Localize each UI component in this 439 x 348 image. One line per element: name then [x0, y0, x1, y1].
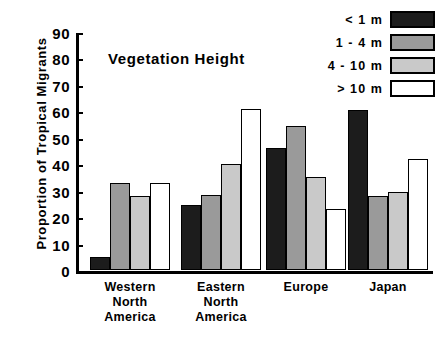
- light-gray-swatch: [390, 57, 435, 74]
- tick-mark: [76, 112, 83, 114]
- bar: [326, 209, 346, 270]
- legend: < 1 m1 - 4 m4 - 10 m> 10 m: [290, 8, 435, 100]
- category-label: WesternNorthAmerica: [78, 280, 182, 325]
- legend-label: 4 - 10 m: [328, 59, 383, 73]
- bar: [368, 196, 388, 270]
- tick-mark: [76, 271, 83, 273]
- bar: [388, 192, 408, 270]
- category-label-line: America: [169, 310, 273, 325]
- tick-mark: [76, 218, 83, 220]
- tick-label: 30: [52, 183, 70, 200]
- tick-label: 10: [52, 236, 70, 253]
- tick-label: 60: [52, 104, 70, 121]
- bar-group: [90, 32, 174, 270]
- bar: [150, 183, 170, 270]
- tick-mark: [76, 59, 83, 61]
- bar: [408, 159, 428, 270]
- category-label-line: Japan: [336, 280, 439, 295]
- category-label-line: North: [169, 295, 273, 310]
- legend-label: 1 - 4 m: [336, 36, 383, 50]
- bar-group: [181, 32, 265, 270]
- bar: [306, 177, 326, 270]
- black-swatch: [390, 11, 435, 28]
- tick-label: 90: [52, 25, 70, 42]
- bar: [90, 257, 110, 270]
- tick-label: 0: [61, 263, 70, 280]
- tick-label: 40: [52, 157, 70, 174]
- bar: [241, 109, 261, 270]
- tick-mark: [76, 165, 83, 167]
- y-axis-line: [76, 33, 79, 274]
- bar: [348, 110, 368, 270]
- vegetation-height-bar-chart: Proportion of Tropical Migrants 90807060…: [0, 0, 439, 348]
- white-swatch: [390, 80, 435, 97]
- category-label: Japan: [336, 280, 439, 295]
- tick-mark: [76, 33, 83, 35]
- legend-item: > 10 m: [290, 77, 435, 100]
- legend-item: 4 - 10 m: [290, 54, 435, 77]
- category-label-line: Western: [78, 280, 182, 295]
- bar: [110, 183, 130, 270]
- tick-mark: [76, 86, 83, 88]
- x-axis-line: [76, 271, 433, 274]
- bar: [130, 196, 150, 270]
- category-label-line: North: [78, 295, 182, 310]
- bar: [286, 126, 306, 270]
- bar: [181, 205, 201, 270]
- tick-mark: [76, 139, 83, 141]
- bar: [221, 164, 241, 270]
- chart-annotation: Vegetation Height: [108, 50, 245, 67]
- legend-label: < 1 m: [345, 13, 383, 27]
- legend-item: < 1 m: [290, 8, 435, 31]
- legend-label: > 10 m: [337, 82, 383, 96]
- tick-label: 50: [52, 130, 70, 147]
- tick-mark: [76, 192, 83, 194]
- bar: [266, 148, 286, 270]
- tick-label: 70: [52, 77, 70, 94]
- tick-mark: [76, 245, 83, 247]
- y-axis-title: Proportion of Tropical Migrants: [34, 0, 49, 289]
- category-label-line: America: [78, 310, 182, 325]
- tick-label: 20: [52, 210, 70, 227]
- dark-gray-swatch: [390, 34, 435, 51]
- legend-item: 1 - 4 m: [290, 31, 435, 54]
- bar: [201, 195, 221, 270]
- tick-label: 80: [52, 51, 70, 68]
